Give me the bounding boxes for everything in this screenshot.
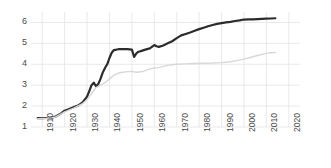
x-tick-label: 1910 [46, 113, 55, 132]
y-tick-label: 4 [13, 59, 27, 68]
x-tick-label: 2020 [293, 113, 302, 132]
x-tick-label: 1930 [91, 113, 100, 132]
y-tick-label: 5 [13, 38, 27, 47]
y-tick-label: 2 [13, 101, 27, 110]
y-tick-label: 1 [13, 122, 27, 131]
x-tick-label: 1950 [136, 113, 145, 132]
chart-plot-area [0, 0, 331, 168]
x-tick-label: 1920 [69, 113, 78, 132]
y-tick-label: 3 [13, 80, 27, 89]
x-tick-label: 1940 [113, 113, 122, 132]
y-tick-label: 6 [13, 17, 27, 26]
x-tick-label: 1990 [226, 113, 235, 132]
x-tick-label: 1980 [203, 113, 212, 132]
x-tick-label: 1960 [158, 113, 167, 132]
x-tick-label: 2000 [248, 113, 257, 132]
x-tick-label: 1970 [181, 113, 190, 132]
series-lines [38, 18, 276, 118]
x-tick-label: 2010 [270, 113, 279, 132]
series-line-secondary [38, 53, 276, 119]
line-chart: 123456 191019201930194019501960197019801… [0, 0, 331, 168]
